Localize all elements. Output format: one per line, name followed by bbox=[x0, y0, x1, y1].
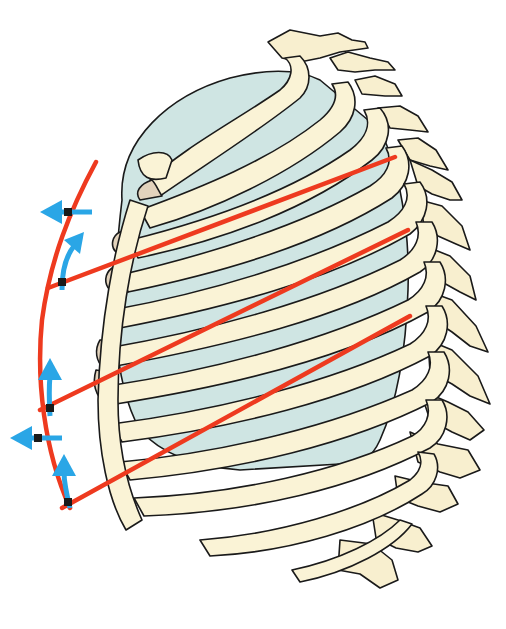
diagram-svg bbox=[0, 0, 506, 629]
motion-arrows bbox=[10, 200, 92, 508]
arrow-left-lower-icon bbox=[10, 426, 62, 450]
rib-cage-diagram bbox=[0, 0, 506, 629]
